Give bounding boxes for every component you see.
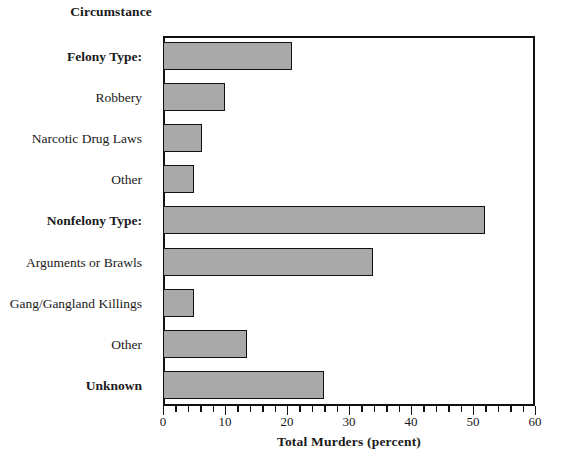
category-label: Arguments or Brawls — [26, 242, 142, 283]
bar-row — [163, 324, 535, 365]
bar-row — [163, 118, 535, 159]
bar — [163, 289, 194, 317]
x-tick-minor — [448, 406, 449, 412]
x-tick-minor — [200, 406, 201, 412]
bars-layer — [163, 36, 535, 406]
category-label: Gang/Gangland Killings — [10, 283, 142, 324]
x-tick-label: 50 — [467, 414, 480, 430]
category-label: Robbery — [96, 77, 143, 118]
bar-chart: Circumstance Felony Type:RobberyNarcotic… — [0, 0, 563, 455]
x-tick-minor — [262, 406, 263, 412]
bar — [163, 42, 292, 70]
x-tick-minor — [361, 406, 362, 412]
x-tick-label: 20 — [281, 414, 294, 430]
x-tick-minor — [275, 406, 276, 412]
category-label-list: Felony Type:RobberyNarcotic Drug LawsOth… — [0, 36, 155, 406]
x-tick-label: 60 — [529, 414, 542, 430]
category-label: Felony Type: — [67, 36, 142, 77]
category-label: Unknown — [86, 365, 142, 406]
x-tick-label: 40 — [405, 414, 418, 430]
x-tick-minor — [510, 406, 511, 412]
x-tick-minor — [299, 406, 300, 412]
x-tick-minor — [523, 406, 524, 412]
bar — [163, 330, 247, 358]
x-tick-minor — [324, 406, 325, 412]
category-label: Narcotic Drug Laws — [32, 118, 142, 159]
bar-row — [163, 283, 535, 324]
bar-row — [163, 365, 535, 406]
x-tick-minor — [485, 406, 486, 412]
x-tick-minor — [374, 406, 375, 412]
bar — [163, 371, 324, 399]
bar — [163, 83, 225, 111]
bar — [163, 206, 485, 234]
bar-row — [163, 159, 535, 200]
x-tick-minor — [498, 406, 499, 412]
x-tick-minor — [213, 406, 214, 412]
x-tick-label: 30 — [343, 414, 356, 430]
bar — [163, 248, 373, 276]
x-tick-minor — [250, 406, 251, 412]
x-tick-minor — [386, 406, 387, 412]
bar-row — [163, 77, 535, 118]
x-tick-label: 10 — [219, 414, 232, 430]
x-tick-minor — [399, 406, 400, 412]
bar-row — [163, 36, 535, 77]
bar-row — [163, 200, 535, 241]
x-tick-minor — [188, 406, 189, 412]
axis-group-title: Circumstance — [0, 4, 152, 20]
x-tick-minor — [436, 406, 437, 412]
x-axis-title: Total Murders (percent) — [163, 434, 535, 450]
x-tick-minor — [175, 406, 176, 412]
bar — [163, 165, 194, 193]
x-tick-label: 0 — [160, 414, 167, 430]
x-tick-minor — [237, 406, 238, 412]
x-tick-minor — [312, 406, 313, 412]
x-tick-minor — [423, 406, 424, 412]
category-label: Nonfelony Type: — [47, 200, 142, 241]
category-label: Other — [111, 159, 142, 200]
bar — [163, 124, 202, 152]
x-tick-minor — [461, 406, 462, 412]
category-label: Other — [111, 324, 142, 365]
x-tick-minor — [337, 406, 338, 412]
bar-row — [163, 242, 535, 283]
